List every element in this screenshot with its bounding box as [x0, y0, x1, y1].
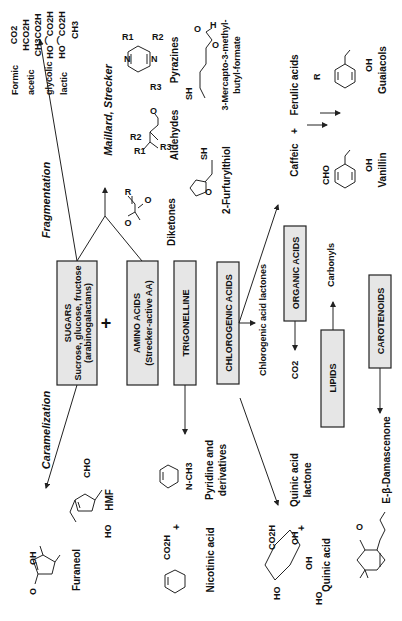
acid-name-acetic: acetic	[26, 69, 36, 95]
mercapto-formate-group: SH O O H 3-Mercapto-3-methyl- butyl-form…	[184, 19, 242, 110]
formula-formic: HCO2H	[21, 19, 31, 51]
formula-glycolic: HO⌒CO2H	[44, 11, 55, 59]
guaiacols-label: Guaiacols	[377, 46, 388, 94]
pyrazines-label: Pyrazines	[169, 36, 180, 83]
caffeic-label: Caffeic	[289, 143, 300, 177]
vanillin-cho-label: CHO	[321, 165, 331, 185]
coffee-flavor-pathway-diagram: SUGARS Sucrose, glucose, fructose (arabi…	[0, 0, 402, 621]
furfurylthiol-group: O SH 2-Furfurylthiol	[190, 146, 232, 214]
pyridinium-nch3-label: N-CH3	[184, 462, 194, 490]
nicotinic-co2h-label: CO2H	[162, 535, 172, 560]
furfuryl-sh-label: SH	[199, 147, 209, 160]
carotenoids-title: CAROTENOIDS	[376, 288, 386, 355]
damascenone-label: E-β-Damascenone	[381, 416, 392, 504]
pyrazine-n2-label: N	[151, 54, 158, 64]
guaiacol-r-label: R	[312, 73, 322, 80]
plus-sign: +	[101, 313, 112, 333]
pyrazine-ring-icon	[128, 46, 150, 72]
amino-acids-title: AMINO ACIDS	[132, 293, 142, 353]
chlorogenic-lactones-label: Chlorogenic acid lactones	[258, 264, 268, 376]
organic-co2-label: CO2	[290, 361, 300, 380]
formula-lactic-ch3: CH3	[70, 21, 80, 39]
box-lipids: LIPIDS	[321, 330, 344, 427]
quinic-lactone-line1: Quinic acid	[289, 453, 300, 507]
fragmentation-acids: CO2 HCO2H CH3CO2H HO⌒CO2H HO⌒CO2H CH3 Fo…	[9, 11, 80, 95]
acid-name-formic: Formic	[10, 65, 20, 95]
hmf-ho-label: HO	[103, 525, 113, 539]
box-trigonelline: TRIGONELLINE	[174, 261, 196, 385]
vanillin-oh-label: OH	[364, 159, 374, 173]
mercapto-sh-label: SH	[184, 87, 194, 100]
diketones-group: R O O Diketones	[124, 187, 177, 246]
aldehydes-label: Aldehydes	[169, 109, 180, 160]
damascenone-o-label: O	[356, 522, 363, 532]
trigonelline-plus: +	[171, 524, 182, 530]
organic-acids-title: ORGANIC ACIDS	[291, 237, 301, 310]
furaneol-o-label: O	[28, 588, 38, 595]
hmf-label: HMF	[104, 489, 115, 511]
chlorogenic-acids-title: CHLOROGENIC ACIDS	[224, 274, 234, 372]
acid-name-glycolic: glycolic	[44, 61, 54, 95]
furaneol-oh-label: OH	[28, 552, 38, 566]
quinic-ho1-label: HO	[272, 587, 282, 601]
aldehyde-r2-label: R2	[130, 132, 142, 142]
box-carotenoids: CAROTENOIDS	[369, 275, 391, 368]
lipids-title: LIPIDS	[328, 363, 338, 392]
pyrazine-n1-label: N	[124, 54, 131, 64]
phenolic-group: Caffeic + Ferulic acids CHO OH Vanillin …	[289, 46, 388, 188]
pyridinium-ring-icon	[160, 465, 178, 488]
diketone-o1-label: O	[144, 195, 151, 205]
hmf-ring-icon	[70, 490, 102, 522]
guaiacol-ring-icon	[335, 50, 355, 88]
pyrazine-r3-label: R3	[150, 82, 162, 92]
pyridine-label-line2: derivatives	[217, 443, 228, 496]
mercapto-label-line1: 3-Mercapto-3-methyl-	[220, 19, 230, 110]
guaiacol-oh-label: OH	[364, 59, 374, 73]
quinic-lactone-line2: lactone	[302, 462, 313, 497]
trigonelline-products-group: N-CH3 Pyridine and derivatives + CO2H Ni…	[160, 440, 228, 593]
quinic-plus: +	[296, 525, 307, 531]
acid-name-lactic: lactic	[59, 72, 69, 95]
formula-acetic: CH3CO2H	[33, 13, 43, 56]
mercapto-label-line2: butyl-formate	[232, 36, 242, 94]
box-amino-acids: AMINO ACIDS (Strecker-active AA)	[127, 261, 158, 385]
aldehyde-structure-icon	[143, 114, 158, 150]
quinic-acid-label: Quinic acid	[321, 538, 332, 592]
pyrazine-r1-label: R1	[122, 32, 134, 42]
pyrazine-r2-label: R2	[152, 32, 164, 42]
quinic-arrow	[240, 398, 278, 505]
maillard-strecker-label: Maillard, Strecker	[102, 63, 114, 155]
sugar-amino-join-line	[77, 216, 142, 261]
ferulic-label: Ferulic acids	[289, 54, 300, 116]
box-sugars: SUGARS Sucrose, glucose, fructose (arabi…	[57, 261, 97, 385]
sugars-line3: (arabinogalactans)	[83, 283, 93, 363]
mercapto-formate-structure-icon	[200, 28, 212, 98]
furfuryl-o-label: O	[205, 187, 212, 197]
quinic-oh1-label: OH	[290, 532, 300, 546]
vanillin-label: Vanillin	[377, 152, 388, 187]
sugars-line2: Sucrose, glucose, fructose	[73, 265, 83, 380]
quinic-oh2-label: OH	[304, 557, 314, 571]
nicotinic-ring-icon	[165, 570, 185, 593]
furfurylthiol-label: 2-Furfurylthiol	[221, 146, 232, 214]
hmf-cho-label: CHO	[82, 458, 92, 478]
mercapto-h-label: H	[210, 20, 217, 30]
mercapto-carbonyl-o-label: O	[194, 24, 201, 34]
quinic-ho2-label: HO	[314, 592, 324, 606]
sugars-title: SUGARS	[63, 304, 73, 343]
quinic-group: CO2H OH OH HO HO Quinic acid + Quinic ac…	[265, 453, 332, 605]
box-chlorogenic-acids: CHLOROGENIC ACIDS	[217, 262, 239, 384]
caramel-products-group: CHO HO HMF OH O Furaneol	[28, 458, 115, 595]
amino-acids-line2: (Strecker-active AA)	[144, 280, 154, 366]
formula-co2: CO2	[9, 26, 19, 45]
aldehyde-r1-label: R1	[134, 146, 146, 156]
quinic-co2h-label: CO2H	[267, 525, 277, 550]
diketone-structure-icon	[128, 196, 143, 220]
nicotinic-label: Nicotinic acid	[205, 527, 216, 592]
mercapto-o-label: O	[212, 40, 219, 50]
caramelization-label: Caramelization	[40, 391, 52, 470]
aldehyde-o-label: O	[150, 106, 157, 116]
box-organic-acids: ORGANIC ACIDS	[284, 226, 306, 321]
vanillin-ring-icon	[335, 150, 355, 188]
pyrazines-group: N N R1 R2 R3 Pyrazines	[122, 32, 180, 92]
